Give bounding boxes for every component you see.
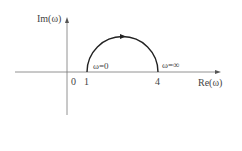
omega-infinity-label: ω=∞ bbox=[162, 61, 179, 70]
y-axis-label: Im(ω) bbox=[37, 14, 61, 24]
tick-four: 4 bbox=[155, 77, 160, 87]
direction-arrow-icon bbox=[120, 34, 126, 39]
omega-zero-label: ω=0 bbox=[93, 62, 109, 71]
real-axis-arrow-icon bbox=[215, 70, 221, 74]
tick-origin: 0 bbox=[71, 77, 76, 87]
imaginary-axis-arrow-icon bbox=[65, 17, 69, 23]
tick-one: 1 bbox=[84, 77, 89, 87]
x-axis-label: Re(ω) bbox=[198, 78, 222, 88]
